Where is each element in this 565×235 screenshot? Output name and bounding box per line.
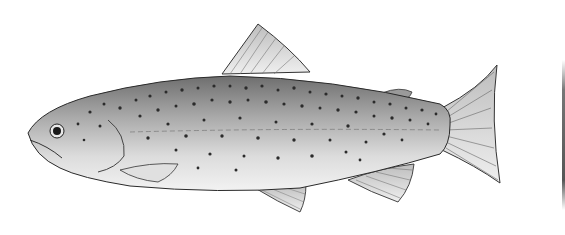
fish-drawing [0,0,565,235]
tail-fin [442,65,500,183]
